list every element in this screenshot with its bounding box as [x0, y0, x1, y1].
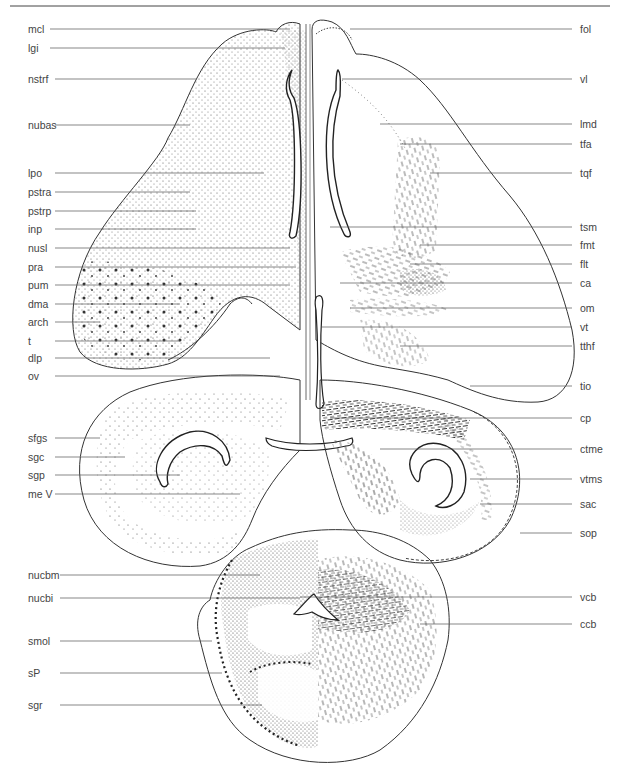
label-nucbi: nucbi	[28, 592, 53, 604]
label-ca: ca	[580, 277, 591, 289]
label-vtms: vtms	[580, 473, 602, 485]
right-tectal-ventricle	[410, 443, 466, 507]
label-dlp: dlp	[28, 352, 42, 364]
label-pra: pra	[28, 261, 43, 273]
label-flt: flt	[580, 258, 588, 270]
label-pstra: pstra	[28, 186, 51, 198]
label-vt: vt	[580, 321, 588, 333]
label-me-v: me V	[28, 488, 53, 500]
label-sgp: sgp	[28, 469, 45, 481]
right-hemisphere-outline	[312, 20, 574, 402]
label-vl: vl	[580, 73, 588, 85]
label-t: t	[28, 335, 31, 347]
label-tthf: tthf	[580, 340, 595, 352]
leader-lines-right	[300, 29, 572, 624]
label-ctme: ctme	[580, 443, 603, 455]
label-sgc: sgc	[28, 451, 44, 463]
label-pstrp: pstrp	[28, 205, 51, 217]
label-tfa: tfa	[580, 138, 592, 150]
label-cp: cp	[580, 412, 591, 424]
label-tio: tio	[580, 380, 591, 392]
right-lateral-ventricle	[326, 70, 350, 237]
label-lpo: lpo	[28, 167, 42, 179]
label-sop: sop	[580, 527, 597, 539]
label-arch: arch	[28, 316, 48, 328]
label-sfgs: sfgs	[28, 432, 47, 444]
label-vcb: vcb	[580, 591, 596, 603]
label-smol: smol	[28, 635, 50, 647]
label-sac: sac	[580, 498, 596, 510]
label-ov: ov	[28, 370, 39, 382]
label-sgr: sgr	[28, 699, 43, 711]
label-fol: fol	[580, 23, 591, 35]
label-pum: pum	[28, 279, 48, 291]
label-ccb: ccb	[580, 618, 596, 630]
label-lgi: lgi	[28, 42, 39, 54]
label-inp: inp	[28, 223, 42, 235]
label-tqf: tqf	[580, 167, 592, 179]
label-nusl: nusl	[28, 242, 47, 254]
label-sp: sP	[28, 667, 40, 679]
label-fmt: fmt	[580, 239, 595, 251]
label-lmd: lmd	[580, 118, 597, 130]
label-nubas: nubas	[28, 119, 57, 131]
label-nucbm: nucbm	[28, 569, 60, 581]
label-tsm: tsm	[580, 221, 597, 233]
label-nstrf: nstrf	[28, 73, 48, 85]
label-mcl: mcl	[28, 23, 44, 35]
label-om: om	[580, 302, 595, 314]
label-dma: dma	[28, 298, 48, 310]
brain-section-diagram	[0, 0, 621, 784]
